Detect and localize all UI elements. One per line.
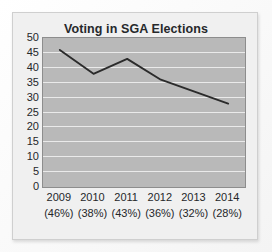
x-axis-tick-group: 2009(46%) — [42, 191, 76, 220]
x-axis-tick-label: 2011 — [109, 191, 143, 204]
x-axis-tick-label: 2013 — [177, 191, 211, 204]
x-axis-tick-label: 2014 — [210, 191, 244, 204]
x-axis-tick-label: 2009 — [42, 191, 76, 204]
chart-title: Voting in SGA Elections — [13, 22, 259, 36]
x-axis-value-label: (36%) — [143, 207, 177, 220]
x-axis-value-label: (43%) — [109, 207, 143, 220]
x-axis-tick-label: 2010 — [76, 191, 110, 204]
y-axis-tick-label: 30 — [13, 92, 39, 103]
x-axis-value-label: (46%) — [42, 207, 76, 220]
series-polyline — [60, 50, 228, 104]
y-axis-tick-label: 10 — [13, 151, 39, 162]
x-axis: 2009(46%)2010(38%)2011(43%)2012(36%)2013… — [42, 191, 246, 231]
y-axis: 50454035302520151050 — [13, 37, 39, 186]
y-axis-tick-label: 40 — [13, 62, 39, 73]
x-axis-tick-group: 2012(36%) — [143, 191, 177, 220]
x-axis-tick-group: 2011(43%) — [109, 191, 143, 220]
y-axis-tick-label: 50 — [13, 32, 39, 43]
plot-area — [42, 37, 246, 188]
figure-root: Voting in SGA Elections 5045403530252015… — [0, 0, 272, 252]
x-axis-tick-group: 2010(38%) — [76, 191, 110, 220]
y-axis-tick-label: 20 — [13, 121, 39, 132]
chart-card: Voting in SGA Elections 5045403530252015… — [12, 12, 258, 240]
x-axis-value-label: (32%) — [177, 207, 211, 220]
y-axis-tick-label: 45 — [13, 47, 39, 58]
y-axis-tick-label: 0 — [13, 181, 39, 192]
x-axis-tick-label: 2012 — [143, 191, 177, 204]
y-axis-tick-label: 35 — [13, 77, 39, 88]
x-axis-value-label: (38%) — [76, 207, 110, 220]
line-series — [43, 38, 245, 187]
y-axis-tick-label: 5 — [13, 166, 39, 177]
x-axis-tick-group: 2013(32%) — [177, 191, 211, 220]
y-axis-tick-label: 15 — [13, 136, 39, 147]
x-axis-tick-group: 2014(28%) — [210, 191, 244, 220]
x-axis-value-label: (28%) — [210, 207, 244, 220]
y-axis-tick-label: 25 — [13, 107, 39, 118]
